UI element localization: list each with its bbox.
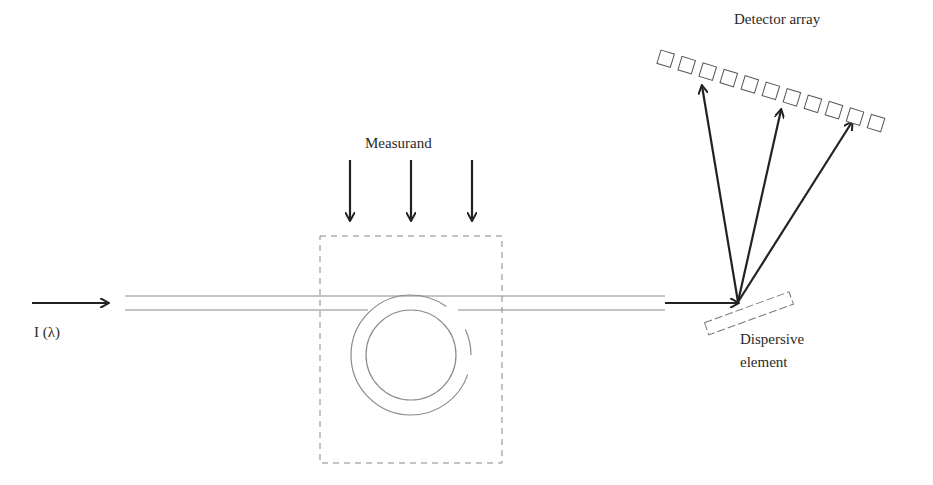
detector-array: [657, 50, 885, 132]
measurand-arrows: [350, 160, 472, 220]
dispersive-element: [704, 292, 793, 335]
optical-fiber: [125, 296, 665, 310]
input-label: I (λ): [34, 324, 60, 341]
dispersive-label-line1: Dispersive: [740, 331, 804, 347]
measurand-label: Measurand: [365, 135, 432, 151]
sensing-region-box: [320, 236, 502, 463]
fiber-loop: [351, 295, 471, 415]
diffracted-rays: [702, 86, 852, 302]
dispersive-label-line2: element: [740, 354, 788, 370]
sensor-diagram: I (λ) Measurand Dispersive element Detec…: [0, 0, 933, 485]
detector-array-label: Detector array: [734, 11, 821, 27]
